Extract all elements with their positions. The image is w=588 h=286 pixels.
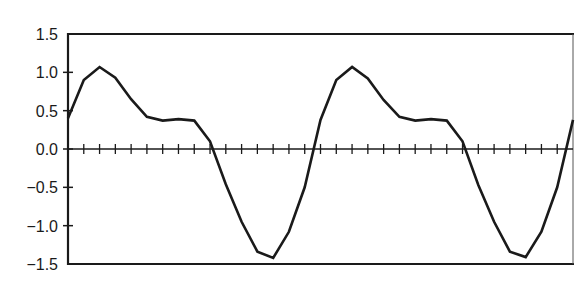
- y-tick-label: 1.0: [36, 64, 58, 81]
- y-tick-label: 0.0: [36, 141, 58, 158]
- series-line-waveform: [68, 67, 573, 258]
- zero-axis: [68, 144, 573, 154]
- y-axis-labels: 1.51.00.50.0−0.5−1.0−1.5: [26, 26, 58, 273]
- y-tick-label: −1.5: [26, 256, 58, 273]
- y-tick-label: −1.0: [26, 218, 58, 235]
- y-tick-label: 0.5: [36, 103, 58, 120]
- y-tick-label: 1.5: [36, 26, 58, 43]
- line-chart: 1.51.00.50.0−0.5−1.0−1.5: [0, 0, 588, 286]
- y-tick-label: −0.5: [26, 179, 58, 196]
